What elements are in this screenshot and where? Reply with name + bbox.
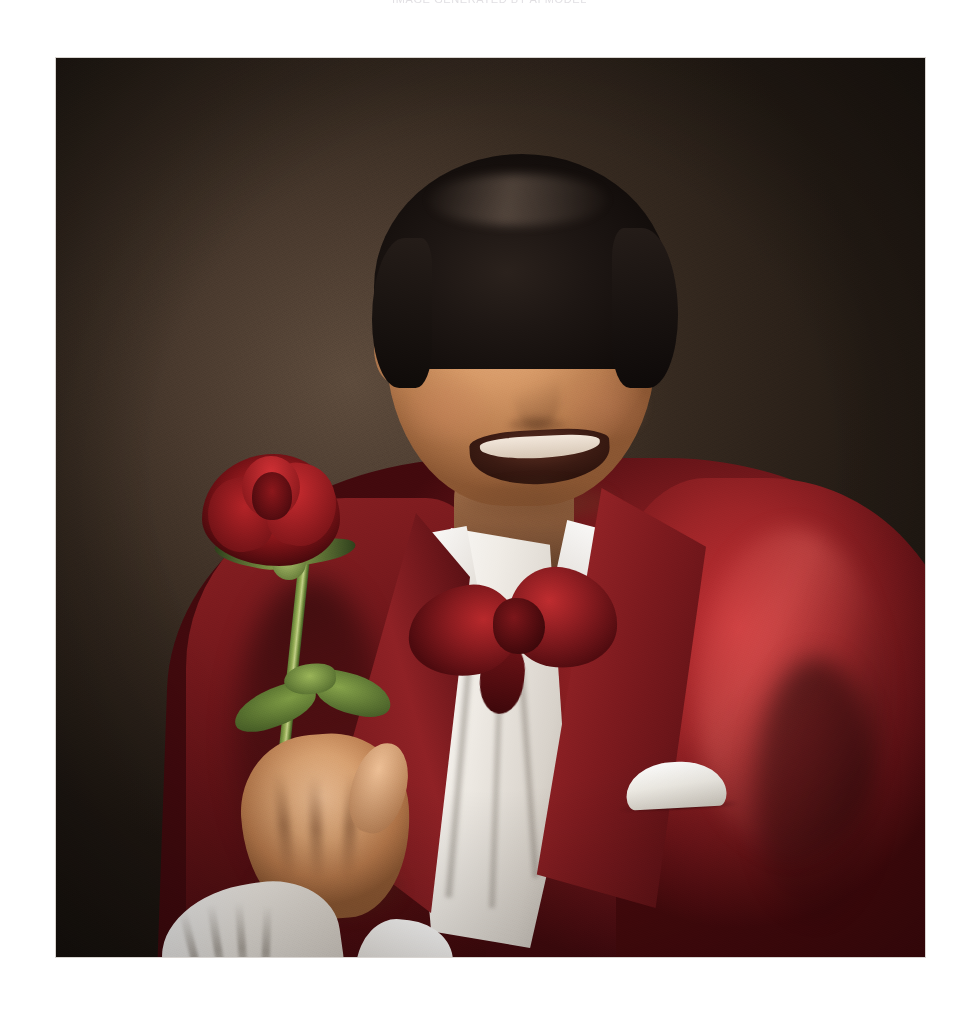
chin-shadow bbox=[464, 482, 614, 522]
figure-group bbox=[56, 58, 925, 957]
portrait-photo bbox=[56, 58, 925, 957]
hair-side-right bbox=[612, 228, 678, 388]
rose-center bbox=[252, 472, 292, 520]
bow-tie-knot bbox=[493, 598, 545, 654]
hair-side-left bbox=[372, 238, 432, 388]
hair-highlight bbox=[428, 174, 608, 226]
top-caption: IMAGE GENERATED BY AI MODEL bbox=[0, 0, 979, 5]
jacket-fold-shadow bbox=[756, 658, 876, 918]
cheek-left bbox=[408, 378, 486, 442]
